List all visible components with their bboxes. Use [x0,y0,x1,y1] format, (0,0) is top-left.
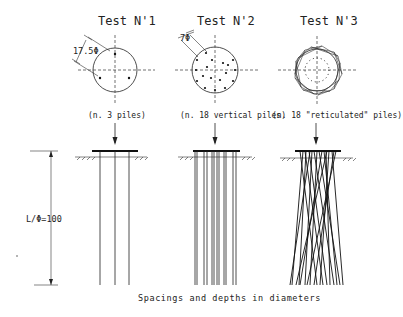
test-3-title: Test N'3 [300,14,358,28]
test-3-elevation [280,151,356,285]
length-dimension: L/Φ=100 [26,151,62,285]
ground-hatch-icon [280,158,356,161]
length-label: L/Φ=100 [26,214,62,224]
test-2-plan-view: 7Φ [175,30,258,105]
test-1-spacing-label: 17.5Φ [73,46,99,56]
down-arrow-icon [213,123,218,145]
test-2-elevation [178,151,255,285]
test-3-caption: (n. 18 "reticulated" piles) [272,111,402,120]
test-2-caption: (n. 18 vertical piles) [180,111,286,120]
test-1-caption: (n. 3 piles) [88,111,146,120]
test-1-title: Test N'1 [98,14,156,28]
test-1-elevation [75,151,148,285]
test-2-spacing-label: 7Φ [180,33,190,43]
ground-hatch-icon [75,157,148,160]
pile-test-diagram: Test N'1 Test N'2 Test N'3 17.5Φ [0,0,403,317]
test-2-title: Test N'2 [197,14,255,28]
ground-hatch-icon [178,157,255,160]
test-1-plan-view: 17.5Φ [72,35,155,103]
down-arrow-icon [113,123,118,145]
footnote: Spacings and depths in diameters [138,293,321,303]
test-3-plan-view [278,36,358,105]
down-arrow-icon [314,123,319,145]
